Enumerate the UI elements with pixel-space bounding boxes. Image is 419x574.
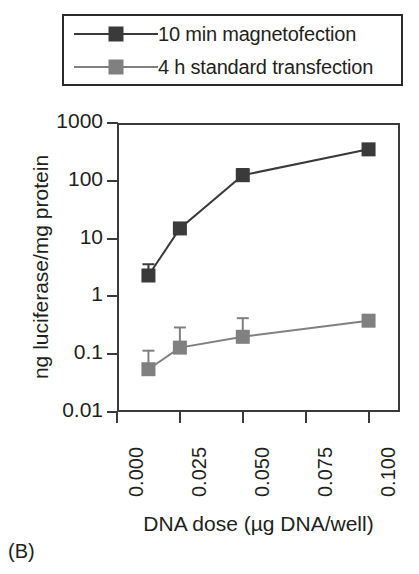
chart-legend: 10 min magnetofection 4 h standard trans…	[62, 14, 403, 86]
y-axis-tick-label: 1000	[3, 109, 103, 133]
series-standard-transfection	[141, 314, 375, 377]
series-magnetofection	[141, 142, 375, 282]
x-axis-tick	[305, 412, 307, 423]
y-axis-tick-label: 0.01	[3, 398, 103, 422]
legend-marker-square-standard-transfection	[109, 60, 124, 75]
x-axis-title: DNA dose (µg DNA/well)	[117, 512, 400, 536]
data-point-marker	[173, 341, 187, 355]
series-line	[148, 149, 368, 275]
x-axis-tick	[368, 412, 370, 423]
y-axis-tick-label: 0.1	[3, 340, 103, 364]
legend-label-magnetofection: 10 min magnetofection	[158, 23, 356, 46]
y-axis-tick-label: 100	[3, 167, 103, 191]
y-axis-tick-label: 1	[3, 282, 103, 306]
data-point-marker	[236, 330, 250, 344]
legend-entry-magnetofection: 10 min magnetofection	[64, 19, 401, 49]
legend-entry-standard-transfection: 4 h standard transfection	[64, 52, 401, 82]
data-point-marker	[173, 221, 187, 235]
figure-panel-b: 10 min magnetofection 4 h standard trans…	[0, 0, 419, 574]
x-axis-tick-label: 0.100	[377, 447, 400, 497]
data-point-marker	[236, 168, 250, 182]
plot-data-area	[117, 123, 400, 412]
data-point-marker	[362, 142, 376, 156]
x-axis-tick-label: 0.075	[314, 447, 337, 497]
data-point-marker	[362, 314, 376, 328]
y-axis-tick-label: 10	[3, 225, 103, 249]
x-axis-tick	[116, 412, 118, 423]
panel-label: (B)	[8, 540, 35, 563]
y-axis-title: ng luciferase/mg protein	[29, 142, 53, 392]
data-point-marker	[141, 268, 155, 282]
legend-label-standard-transfection: 4 h standard transfection	[158, 56, 373, 79]
legend-marker-square-magnetofection	[109, 27, 124, 42]
x-axis-tick	[242, 412, 244, 423]
data-point-marker	[141, 362, 155, 376]
x-axis-tick	[179, 412, 181, 423]
x-axis-tick-label: 0.050	[251, 447, 274, 497]
x-axis-tick-label: 0.000	[125, 447, 148, 497]
x-axis-tick-label: 0.025	[188, 447, 211, 497]
